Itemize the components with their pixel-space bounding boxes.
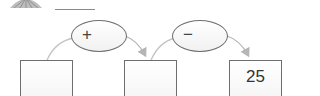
operation-oval-plus: + [71,20,127,52]
plus-sign: + [82,24,92,46]
number-box-2[interactable] [124,60,177,96]
number-box-3: 25 [229,60,282,96]
minus-sign: − [183,24,193,46]
box-3-value: 25 [230,67,281,87]
operation-oval-minus: − [172,20,228,52]
number-box-1[interactable] [20,60,73,96]
